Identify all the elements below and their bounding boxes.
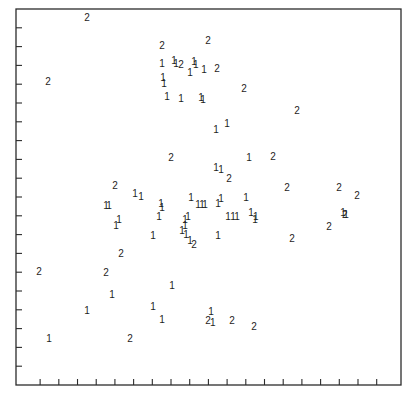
- point-class-1: 1: [150, 301, 156, 312]
- point-class-1: 1: [200, 94, 206, 105]
- point-class-1: 1: [218, 164, 224, 175]
- point-class-2: 2: [284, 182, 290, 193]
- point-class-2: 2: [112, 180, 118, 191]
- point-class-2: 2: [251, 321, 257, 332]
- point-class-2: 2: [336, 182, 342, 193]
- y-axis-ticks: [16, 28, 22, 366]
- point-class-1: 1: [159, 58, 165, 69]
- point-class-2: 2: [342, 209, 348, 220]
- point-class-1: 1: [252, 214, 258, 225]
- point-class-2: 2: [168, 152, 174, 163]
- point-class-1: 1: [246, 152, 252, 163]
- point-class-2: 2: [36, 266, 42, 277]
- point-class-1: 1: [243, 192, 249, 203]
- scatter-plot: 1111111111111111111111111111111111111111…: [0, 0, 411, 398]
- point-class-2: 2: [103, 267, 109, 278]
- point-class-1: 1: [113, 220, 119, 231]
- point-class-1: 1: [132, 188, 138, 199]
- point-class-1: 1: [161, 78, 167, 89]
- point-class-2: 2: [178, 59, 184, 70]
- point-class-1: 1: [159, 314, 165, 325]
- point-class-1: 1: [169, 280, 175, 291]
- point-class-1: 1: [215, 230, 221, 241]
- point-class-2: 2: [294, 105, 300, 116]
- point-class-2: 2: [205, 35, 211, 46]
- point-class-1: 1: [187, 67, 193, 78]
- point-class-2: 2: [191, 239, 197, 250]
- point-class-1: 1: [106, 200, 112, 211]
- point-class-1: 1: [218, 193, 224, 204]
- point-class-1: 1: [84, 305, 90, 316]
- point-class-1: 1: [178, 93, 184, 104]
- point-class-2: 2: [84, 12, 90, 23]
- point-class-1: 1: [234, 211, 240, 222]
- data-points: 1111111111111111111111111111111111111111…: [36, 12, 360, 344]
- point-class-2: 2: [226, 173, 232, 184]
- point-class-1: 1: [46, 333, 52, 344]
- point-class-1: 1: [109, 289, 115, 300]
- point-class-2: 2: [289, 233, 295, 244]
- point-class-1: 1: [138, 191, 144, 202]
- point-class-1: 1: [202, 199, 208, 210]
- point-class-2: 2: [241, 83, 247, 94]
- point-class-1: 1: [150, 230, 156, 241]
- point-class-2: 2: [270, 151, 276, 162]
- point-class-2: 2: [127, 333, 133, 344]
- point-class-2: 2: [326, 221, 332, 232]
- point-class-1: 1: [193, 59, 199, 70]
- point-class-1: 1: [188, 192, 194, 203]
- point-class-2: 2: [229, 315, 235, 326]
- point-class-2: 2: [45, 76, 51, 87]
- point-class-2: 2: [214, 63, 220, 74]
- point-class-1: 1: [164, 91, 170, 102]
- point-class-1: 1: [213, 124, 219, 135]
- point-class-2: 2: [354, 190, 360, 201]
- point-class-1: 1: [224, 118, 230, 129]
- point-class-1: 1: [210, 317, 216, 328]
- x-axis-ticks: [40, 379, 377, 385]
- point-class-2: 2: [205, 315, 211, 326]
- point-class-1: 1: [156, 211, 162, 222]
- point-class-1: 1: [201, 64, 207, 75]
- point-class-2: 2: [159, 40, 165, 51]
- plot-frame: [16, 9, 401, 385]
- point-class-2: 2: [118, 248, 124, 259]
